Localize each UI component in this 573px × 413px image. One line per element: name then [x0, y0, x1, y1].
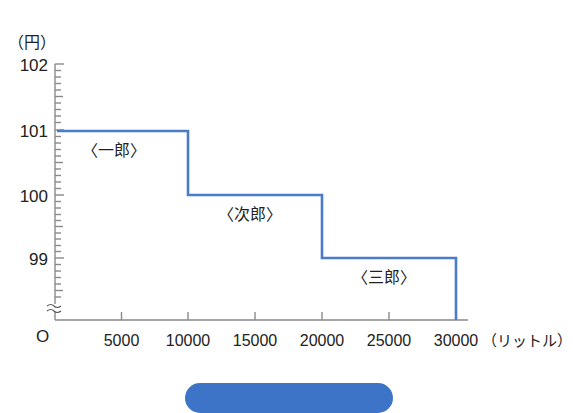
x-tick-30000: 30000 [434, 332, 479, 349]
y-tick-99: 99 [29, 250, 48, 269]
x-tick-10000: 10000 [166, 332, 211, 349]
x-axis [55, 312, 468, 320]
segment-label-ichiro: 〈一郎〉 [82, 141, 146, 160]
segment-label-jiro: 〈次郎〉 [218, 205, 282, 224]
y-tick-101: 101 [20, 122, 48, 141]
axis-break-icon [47, 304, 62, 313]
x-tick-25000: 25000 [367, 332, 412, 349]
x-tick-15000: 15000 [233, 332, 278, 349]
origin-label: O [36, 327, 49, 346]
x-tick-5000: 5000 [104, 332, 140, 349]
blue-button-partial [185, 383, 393, 413]
x-tick-20000: 20000 [300, 332, 345, 349]
y-axis-label: （円） [8, 33, 56, 52]
x-axis-label: （リットル） [482, 332, 572, 350]
segment-label-saburo: 〈三郎〉 [352, 268, 416, 287]
y-tick-100: 100 [20, 187, 48, 206]
y-axis [55, 64, 64, 320]
y-tick-102: 102 [20, 56, 48, 75]
